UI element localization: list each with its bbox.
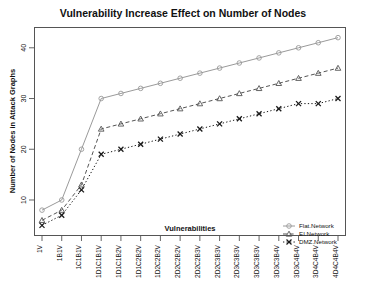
series-layer	[39, 35, 341, 228]
x-tick-label: 1V	[36, 244, 43, 253]
series-line	[42, 99, 338, 226]
x-tick-label: 2D2C3B3V	[214, 244, 221, 278]
vulnerability-line-chart: Vulnerability Increase Effect on Number …	[0, 0, 366, 301]
series-ei-network	[39, 65, 341, 222]
series-flat-network	[40, 35, 341, 212]
x-tick-label: 3D3C4B4V	[293, 244, 300, 278]
x-tick-label: 3D3C3B3V	[253, 244, 260, 278]
y-axis-title: Number of Nodes in Attack Graphs	[8, 69, 17, 193]
series-line	[42, 38, 338, 210]
legend-label: Flat.Network	[299, 222, 335, 229]
data-point-marker	[197, 101, 203, 106]
x-tick-label: 1D2C2B2V	[154, 244, 161, 278]
chart-container: Vulnerability Increase Effect on Number …	[0, 0, 366, 301]
x-tick-label: 2D3C3B3V	[233, 244, 240, 278]
x-axis-title: Vulnerabilities	[165, 224, 216, 233]
y-tick-label: 40	[20, 44, 27, 52]
x-tick-label: 1D1C1B1V	[95, 244, 102, 278]
y-tick-label: 10	[20, 196, 27, 204]
legend-label: DMZ.Network	[299, 238, 338, 245]
y-axis-ticks: 10203040	[20, 44, 35, 204]
x-tick-label: 2D2C2B3V	[194, 244, 201, 278]
x-tick-label: 4D4C4B4V	[332, 244, 339, 278]
x-tick-label: 3D3C3B4V	[273, 244, 280, 278]
series-line	[42, 68, 338, 220]
y-tick-label: 20	[20, 145, 27, 153]
x-tick-label: 1C1B1V	[75, 244, 82, 269]
x-tick-label: 1B1V	[56, 244, 63, 261]
y-tick-label: 30	[20, 95, 27, 103]
chart-title: Vulnerability Increase Effect on Number …	[60, 7, 307, 19]
chart-legend: Flat.NetworkEI.NetworkDMZ.Network	[283, 222, 338, 245]
x-tick-label: 2D2C2B2V	[174, 244, 181, 278]
x-tick-label: 1D1C1B2V	[115, 244, 122, 278]
data-point-marker	[335, 65, 341, 70]
x-tick-label: 1D1C2B2V	[135, 244, 142, 278]
legend-label: EI.Network	[299, 230, 330, 237]
series-dmz-network	[40, 96, 341, 228]
x-tick-label: 3D4C4B4V	[312, 244, 319, 278]
